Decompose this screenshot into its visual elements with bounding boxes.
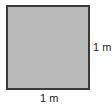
unit-square — [6, 5, 90, 90]
side-length-label: 1 m — [93, 41, 111, 53]
bottom-length-label: 1 m — [40, 92, 58, 104]
